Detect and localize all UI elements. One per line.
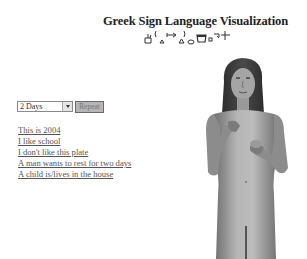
duration-select[interactable]: 2 Days (17, 101, 73, 112)
hamnosys-notation-icon (143, 29, 231, 45)
phrase-link[interactable]: A man wants to rest for two days (18, 158, 131, 169)
repeat-button[interactable]: Repeat (75, 101, 104, 113)
phrase-link[interactable]: I like school (18, 136, 131, 147)
chevron-down-icon[interactable] (62, 102, 72, 111)
duration-select-value: 2 Days (18, 102, 62, 111)
controls-row: 2 Days Repeat (17, 100, 104, 113)
phrase-link[interactable]: This is 2004 (18, 125, 131, 136)
phrase-link[interactable]: A child is/lives in the house (18, 169, 131, 180)
phrase-list: This is 2004 I like school I don't like … (18, 125, 131, 180)
signing-avatar (190, 56, 300, 259)
phrase-link[interactable]: I don't like this plate (18, 147, 131, 158)
page-title: Greek Sign Language Visualization (103, 14, 268, 29)
